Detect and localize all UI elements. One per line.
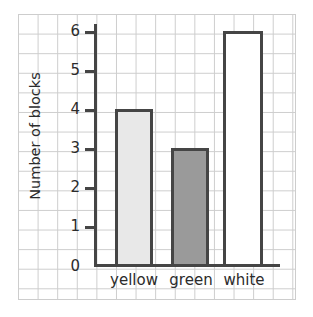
bar-white — [223, 31, 263, 267]
x-category-label-green: green — [164, 272, 218, 289]
y-tick-label-4: 4 — [54, 102, 80, 117]
y-tick-mark-5 — [85, 70, 95, 73]
y-tick-mark-1 — [85, 226, 95, 229]
y-axis-title: Number of blocks — [27, 61, 43, 211]
y-tick-mark-6 — [85, 31, 95, 34]
plot-area: 6 5 4 3 2 1 0 Number of blocks yellow gr… — [0, 0, 313, 317]
y-axis-line — [94, 24, 97, 267]
y-tick-mark-2 — [85, 187, 95, 190]
x-category-label-yellow: yellow — [104, 272, 164, 289]
y-tick-label-6: 6 — [54, 24, 80, 39]
y-tick-label-3: 3 — [54, 141, 80, 156]
y-tick-label-2: 2 — [54, 180, 80, 195]
y-tick-label-0: 0 — [54, 259, 80, 274]
bar-chart: 6 5 4 3 2 1 0 Number of blocks yellow gr… — [0, 0, 313, 317]
y-tick-label-1: 1 — [54, 219, 80, 234]
bar-green — [171, 148, 209, 267]
y-tick-mark-3 — [85, 148, 95, 151]
y-tick-mark-4 — [85, 109, 95, 112]
y-tick-label-5: 5 — [54, 63, 80, 78]
x-category-label-white: white — [218, 272, 270, 289]
bar-yellow — [115, 109, 153, 267]
